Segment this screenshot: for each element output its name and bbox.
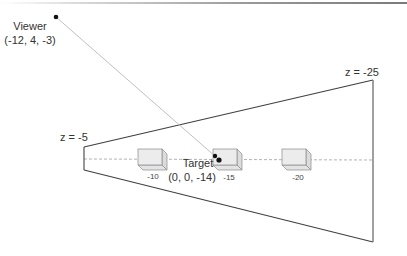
target-point-secondary bbox=[216, 157, 221, 162]
frustum-diagram bbox=[0, 0, 407, 256]
frustum-top-edge bbox=[84, 80, 373, 147]
box-bottom-face bbox=[138, 165, 167, 170]
box-z-20 bbox=[282, 149, 311, 170]
box-bottom-face bbox=[213, 165, 242, 170]
box-z-10 bbox=[138, 149, 167, 170]
target-label: Target bbox=[183, 158, 214, 169]
target-coords: (0, 0, -14) bbox=[168, 172, 216, 183]
box-label-z-10: -10 bbox=[147, 173, 159, 181]
target-point bbox=[213, 154, 217, 158]
far-plane-label: z = -25 bbox=[345, 67, 379, 78]
viewer-label: Viewer bbox=[13, 21, 46, 32]
box-label-z-15: -15 bbox=[223, 174, 235, 182]
box-label-z-20: -20 bbox=[292, 174, 304, 182]
box-front-face bbox=[138, 149, 162, 165]
near-plane-label: z = -5 bbox=[60, 132, 88, 143]
box-bottom-face bbox=[282, 165, 311, 170]
viewer-point bbox=[54, 15, 59, 20]
box-front-face bbox=[282, 149, 306, 165]
viewer-coords: (-12, 4, -3) bbox=[4, 35, 55, 46]
